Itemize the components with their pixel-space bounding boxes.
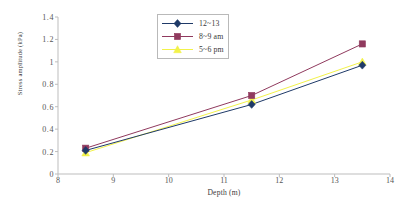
legend-label: 5~6 pm [199, 45, 224, 54]
legend-marker-square-icon [161, 31, 194, 42]
legend-marker-diamond-icon [161, 18, 194, 29]
legend-label: 12~13 [199, 19, 220, 28]
legend-label: 8~9 am [199, 32, 223, 41]
legend-item[interactable]: 5~6 pm [161, 43, 224, 56]
chart-legend: 12~138~9 am5~6 pm [157, 14, 229, 59]
chart-figure: Stress amplitude (kPa) Depth (m) 00.20.4… [0, 0, 408, 210]
legend-marker-triangle-icon [161, 44, 194, 55]
legend-item[interactable]: 12~13 [161, 17, 224, 30]
legend-item[interactable]: 8~9 am [161, 30, 224, 43]
